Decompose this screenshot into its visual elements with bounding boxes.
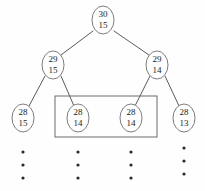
node-upper-value: 30: [99, 9, 109, 19]
tree-node[interactable]: 2914: [146, 51, 168, 79]
ellipsis-dot: [182, 159, 185, 162]
tree-edge: [135, 76, 150, 106]
tree-edge: [29, 76, 45, 106]
tree-node[interactable]: 2915: [42, 51, 64, 79]
node-lower-value: 15: [19, 118, 29, 128]
ellipsis-dot: [76, 163, 79, 166]
node-upper-value: 29: [153, 54, 163, 64]
node-lower-value: 14: [127, 118, 137, 128]
tree-node[interactable]: 2813: [173, 104, 195, 132]
tree-node[interactable]: 2814: [67, 104, 89, 132]
node-upper-value: 28: [74, 107, 84, 117]
node-lower-value: 14: [74, 118, 84, 128]
ellipsis-dot: [182, 146, 185, 149]
tree-edge: [114, 31, 149, 55]
ellipsis-dot: [129, 150, 132, 153]
node-lower-value: 15: [49, 65, 59, 75]
ellipsis-group: [21, 146, 185, 179]
tree-edge: [61, 76, 74, 106]
tree-edge: [165, 76, 179, 106]
ellipsis-dot: [129, 163, 132, 166]
node-upper-value: 29: [49, 54, 59, 64]
tree-edge: [61, 31, 93, 55]
node-lower-value: 15: [99, 20, 109, 30]
node-upper-value: 28: [180, 107, 190, 117]
search-tree-diagram: 3015291529142815281428142813: [0, 0, 205, 191]
tree-node[interactable]: 3015: [92, 6, 114, 34]
node-lower-value: 13: [180, 118, 190, 128]
tree-node[interactable]: 2815: [12, 104, 34, 132]
ellipsis-dot: [76, 176, 79, 179]
ellipsis-dot: [129, 176, 132, 179]
ellipsis-dot: [21, 163, 24, 166]
node-upper-value: 28: [127, 107, 137, 117]
node-upper-value: 28: [19, 107, 29, 117]
ellipsis-dot: [182, 172, 185, 175]
ellipsis-dot: [21, 176, 24, 179]
ellipsis-dot: [76, 150, 79, 153]
tree-node[interactable]: 2814: [120, 104, 142, 132]
node-lower-value: 14: [153, 65, 163, 75]
node-group: 3015291529142815281428142813: [12, 6, 195, 132]
ellipsis-dot: [21, 150, 24, 153]
tree-canvas: 3015291529142815281428142813: [0, 0, 205, 191]
